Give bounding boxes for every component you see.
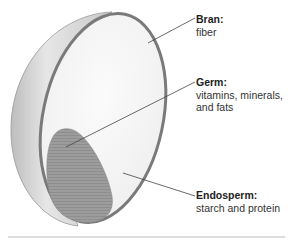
germ-title: Germ:	[196, 76, 283, 89]
bran-title: Bran:	[196, 13, 223, 26]
germ-desc-line-2: and fats	[196, 101, 283, 114]
endosperm-title: Endosperm:	[196, 189, 280, 202]
endosperm-label: Endosperm: starch and protein	[196, 189, 280, 214]
bran-label: Bran: fiber	[196, 13, 223, 38]
bran-leader-line	[148, 18, 195, 43]
germ-label: Germ: vitamins, minerals, and fats	[196, 76, 283, 114]
bran-desc: fiber	[196, 26, 223, 39]
endosperm-desc: starch and protein	[196, 202, 280, 215]
germ-desc-line-1: vitamins, minerals,	[196, 89, 283, 102]
